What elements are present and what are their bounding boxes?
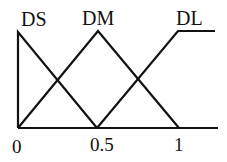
tick-label-0: 0 (12, 136, 22, 157)
series-dm (18, 31, 179, 128)
tick-label-1: 1 (174, 134, 184, 155)
series-dl (97, 31, 215, 128)
label-dm: DM (82, 7, 114, 29)
label-dl: DL (176, 7, 203, 29)
tick-label-0-5: 0.5 (90, 134, 114, 155)
label-ds: DS (21, 8, 47, 30)
membership-function-diagram: DS DM DL 0 0.5 1 (0, 0, 227, 162)
